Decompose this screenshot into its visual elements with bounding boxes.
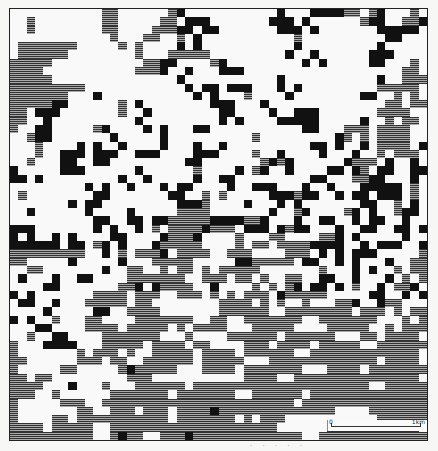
map-cell: [18, 249, 26, 257]
map-cell: [127, 158, 135, 166]
map-cell: [227, 75, 235, 83]
map-cell: [235, 299, 243, 307]
map-cell: [85, 200, 93, 208]
map-cell: [68, 283, 76, 291]
map-cell: [52, 75, 60, 83]
map-cell: [410, 399, 418, 407]
map-cell: [227, 34, 235, 42]
map-cell: [327, 382, 335, 390]
map-cell: [377, 108, 385, 116]
map-cell: [394, 50, 402, 58]
map-cell: [377, 390, 385, 398]
map-cell: [285, 175, 293, 183]
map-cell: [302, 423, 310, 431]
map-cell: [160, 9, 168, 17]
map-cell: [143, 59, 151, 67]
map-cell: [68, 349, 76, 357]
map-cell: [52, 125, 60, 133]
map-cell: [110, 283, 118, 291]
map-cell: [152, 84, 160, 92]
map-cell: [277, 258, 285, 266]
map-cell: [219, 357, 227, 365]
map-cell: [10, 42, 18, 50]
map-cell: [193, 84, 201, 92]
map-cell: [269, 9, 277, 17]
map-cell: [335, 266, 343, 274]
map-cell: [27, 191, 35, 199]
map-cell: [244, 266, 252, 274]
map-cell: [185, 208, 193, 216]
map-cell: [394, 67, 402, 75]
map-cell: [143, 390, 151, 398]
map-cell: [68, 166, 76, 174]
map-cell: [160, 191, 168, 199]
map-cell: [102, 42, 110, 50]
map-cell: [35, 299, 43, 307]
map-cell: [352, 341, 360, 349]
map-cell: [219, 150, 227, 158]
map-cell: [410, 365, 418, 373]
map-cell: [168, 258, 176, 266]
map-cell: [319, 175, 327, 183]
map-cell: [143, 307, 151, 315]
map-cell: [327, 183, 335, 191]
map-cell: [252, 274, 260, 282]
map-cell: [168, 208, 176, 216]
map-cell: [385, 225, 393, 233]
map-cell: [202, 142, 210, 150]
map-cell: [377, 200, 385, 208]
map-cell: [18, 34, 26, 42]
map-cell: [85, 26, 93, 34]
map-cell: [302, 291, 310, 299]
map-cell: [127, 274, 135, 282]
map-cell: [335, 9, 343, 17]
map-cell: [43, 133, 51, 141]
map-cell: [319, 183, 327, 191]
map-cell: [302, 374, 310, 382]
map-cell: [77, 374, 85, 382]
map-cell: [369, 59, 377, 67]
map-cell: [360, 125, 368, 133]
map-cell: [185, 423, 193, 431]
map-cell: [160, 299, 168, 307]
map-cell: [152, 225, 160, 233]
map-cell: [68, 266, 76, 274]
map-cell: [244, 42, 252, 50]
map-cell: [410, 100, 418, 108]
map-cell: [168, 365, 176, 373]
map-cell: [410, 274, 418, 282]
map-cell: [168, 108, 176, 116]
map-cell: [335, 399, 343, 407]
map-cell: [227, 415, 235, 423]
map-cell: [352, 382, 360, 390]
map-cell: [360, 283, 368, 291]
map-cell: [269, 274, 277, 282]
map-cell: [35, 208, 43, 216]
map-cell: [294, 233, 302, 241]
map-cell: [135, 133, 143, 141]
map-cell: [152, 150, 160, 158]
map-cell: [160, 341, 168, 349]
map-cell: [93, 390, 101, 398]
map-cell: [277, 50, 285, 58]
map-cell: [302, 382, 310, 390]
map-cell: [118, 241, 126, 249]
map-cell: [160, 158, 168, 166]
map-cell: [352, 142, 360, 150]
map-cell: [77, 166, 85, 174]
map-cell: [177, 200, 185, 208]
map-cell: [35, 432, 43, 440]
map-cell: [60, 374, 68, 382]
map-cell: [394, 233, 402, 241]
map-cell: [143, 92, 151, 100]
map-cell: [168, 75, 176, 83]
map-cell: [193, 42, 201, 50]
map-cell: [235, 390, 243, 398]
map-cell: [35, 50, 43, 58]
map-cell: [344, 283, 352, 291]
map-cell: [369, 332, 377, 340]
map-cell: [143, 166, 151, 174]
map-cell: [294, 241, 302, 249]
map-cell: [93, 67, 101, 75]
map-cell: [152, 415, 160, 423]
